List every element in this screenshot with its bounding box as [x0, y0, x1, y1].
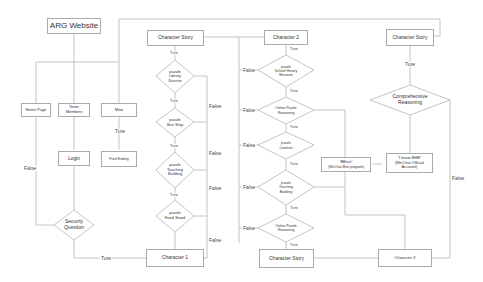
text: Canteen	[279, 146, 292, 150]
edge-label-true: Ture	[289, 162, 299, 166]
edge-label-true: Ture	[114, 129, 126, 134]
text: Building	[168, 172, 182, 177]
online-puzzle-reasoning-1: Online Puzzle Reasoning	[258, 97, 314, 124]
edge-label-true: Ture	[404, 62, 416, 67]
character-story-node-1: Character Story	[147, 30, 204, 46]
edge-label-false: False	[242, 108, 256, 113]
puzzle-school-history-museum: puzzle School History Museum	[258, 55, 314, 87]
text: Food Stand	[165, 216, 186, 221]
edge-label-false: False	[208, 186, 222, 191]
edge-label-true: Ture	[100, 256, 112, 261]
text: Bus Stop	[167, 123, 183, 128]
edge-label-true: Ture	[169, 193, 179, 197]
team-members-line2: Members	[66, 110, 83, 115]
character-3-node: Character 3	[378, 249, 432, 267]
puzzle-food-stand: puzzle Food Stand	[156, 200, 194, 232]
edge-label-true: Ture	[169, 144, 179, 148]
edge-label-true: Ture	[169, 51, 179, 55]
edge-label-true: Ture	[289, 47, 299, 51]
text: Reasoning	[398, 100, 422, 106]
final-ending-node: Final Ending	[101, 151, 137, 167]
edge-label-false: False	[208, 238, 222, 243]
puzzle-teaching-building-2: puzzle Teaching Building	[258, 170, 314, 205]
puzzle-library-survive: puzzle Library Survive	[156, 60, 194, 93]
edge-label-false: False	[242, 143, 256, 148]
puzzle-teaching-building-1: puzzle Teaching Building	[156, 152, 194, 188]
edge-label-false: False	[242, 68, 256, 73]
text: Reasoning	[278, 111, 295, 115]
security-question-label: Security Question	[54, 210, 94, 240]
wechat-official-account-node: "I know BHB" (WeChat Official Account)	[386, 153, 433, 173]
edge-label-true: Ture	[289, 89, 299, 93]
edge-label-true: Ture	[289, 125, 299, 129]
arg-website-node: ARG Website	[47, 18, 101, 34]
online-puzzle-reasoning-2: Online Puzzle Reasoning	[258, 214, 314, 242]
edge-label-false: False	[451, 176, 465, 181]
comprehensive-reasoning: Comprehensive Reasoning	[370, 85, 450, 115]
text: Building	[280, 190, 292, 194]
team-members-node: Team Members	[58, 103, 90, 117]
edge-label-false: False	[208, 151, 222, 156]
security-line2: Question	[64, 225, 84, 231]
edge-label-false: False	[23, 166, 37, 171]
edge-label-true: Ture	[289, 243, 299, 247]
mine-node: Mine	[101, 103, 137, 117]
text: (WeChat Mini program)	[328, 165, 364, 169]
edge-label-true: Ture	[289, 206, 299, 210]
edge-label-false: False	[242, 185, 256, 190]
text: Survive	[168, 79, 181, 84]
text: Account)	[402, 165, 418, 170]
text: Museum	[279, 73, 292, 77]
edge-label-false: False	[242, 226, 256, 231]
login-node: Login	[58, 151, 90, 166]
edge-label-false: False	[208, 104, 222, 109]
home-page-node: Home Page	[21, 103, 51, 117]
puzzle-bus-stop: puzzle Bus Stop	[156, 108, 194, 137]
character-1-node: Character 1	[146, 249, 204, 267]
character-story-node-2: Character Story	[259, 249, 314, 268]
puzzle-canteen: puzzle Canteen	[258, 132, 314, 159]
edge-label-true: Ture	[169, 99, 179, 103]
text: Reasoning	[278, 228, 295, 232]
character-story-node-3: Character Story	[386, 29, 434, 46]
character-2-node: Character 2	[264, 30, 308, 45]
wechat-mini-program-node: "BBhue" (WeChat Mini program)	[321, 157, 371, 172]
